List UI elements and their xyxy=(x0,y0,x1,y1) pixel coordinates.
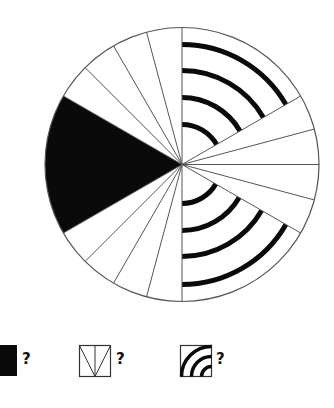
legend-sector-lines-icon xyxy=(80,346,111,377)
legend-arcs-icon xyxy=(181,346,212,377)
circle-sectors xyxy=(45,28,319,302)
legend-label-arcs: ? xyxy=(216,352,225,367)
legend-label-lines: ? xyxy=(116,352,125,367)
legend-label-black: ? xyxy=(22,352,31,367)
legend-black-square-icon xyxy=(0,345,17,376)
pie-diagram xyxy=(0,0,334,408)
